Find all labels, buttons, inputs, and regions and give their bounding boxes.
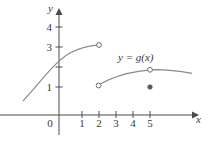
filled-point-5-low: [148, 85, 153, 90]
open-point-5-top: [148, 67, 153, 72]
y-tick-label-4: 4: [38, 22, 52, 33]
open-point-2-3: [97, 43, 102, 48]
x-tick-label-1: 1: [75, 118, 89, 129]
open-point-2-1: [96, 83, 101, 88]
x-axis-label: x: [196, 114, 201, 125]
curve-annotation-label: y = g(x): [118, 52, 154, 63]
x-tick-label-3: 3: [109, 118, 123, 129]
x-tick-label-4: 4: [126, 118, 140, 129]
curve-branch-1: [23, 45, 97, 101]
graph-figure: y x 0 1 2 3 4 5 1 3 4 y = g(x): [0, 0, 208, 149]
y-tick-label-3: 3: [38, 42, 52, 53]
y-axis-label: y: [48, 3, 53, 14]
x-tick-label-5: 5: [143, 118, 157, 129]
origin-label: 0: [44, 118, 56, 129]
x-tick-label-2: 2: [92, 118, 106, 129]
y-axis-arrow: [56, 8, 63, 15]
y-tick-label-1: 1: [38, 82, 52, 93]
curve-branch-2: [100, 70, 192, 85]
